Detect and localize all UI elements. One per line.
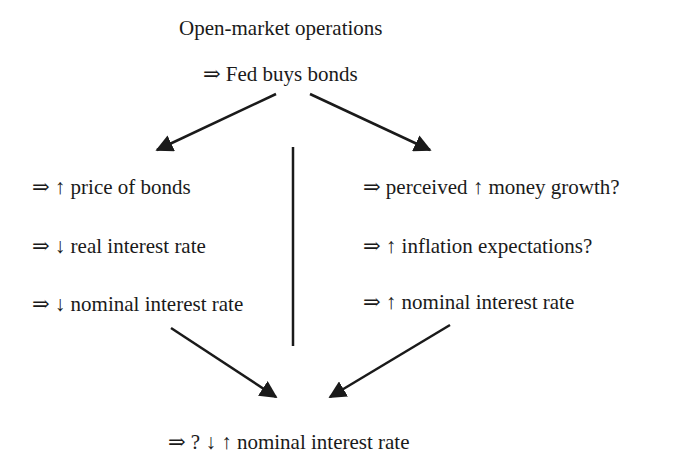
result-nominal-interest-rate: ⇒ ? ↓ ↑ nominal interest rate — [168, 430, 410, 454]
right-item-inflation-expectations: ⇒ ↑ inflation expectations? — [363, 234, 592, 258]
diagram-title: Open-market operations — [179, 16, 383, 40]
left-item-nominal-interest-rate: ⇒ ↓ nominal interest rate — [32, 292, 243, 316]
left-item-real-interest-rate: ⇒ ↓ real interest rate — [32, 234, 206, 258]
left-item-price-of-bonds: ⇒ ↑ price of bonds — [32, 175, 191, 199]
arrow-to-left-branch — [157, 94, 276, 150]
arrow-left-to-result — [171, 328, 276, 397]
arrow-right-to-result — [330, 325, 450, 397]
right-item-nominal-interest-rate: ⇒ ↑ nominal interest rate — [363, 290, 574, 314]
fed-buys-bonds: ⇒ Fed buys bonds — [203, 62, 358, 86]
right-item-money-growth: ⇒ perceived ↑ money growth? — [363, 175, 620, 199]
arrow-to-right-branch — [310, 94, 430, 150]
